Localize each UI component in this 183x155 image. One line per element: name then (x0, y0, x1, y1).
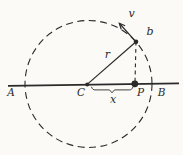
label-endpoint-left: A (6, 86, 15, 98)
label-projection-point: P (136, 86, 145, 98)
center-point-dot (85, 82, 89, 86)
diameter-line (8, 83, 179, 85)
radius-line (87, 42, 136, 85)
label-radius: r (105, 48, 111, 61)
particle-point-dot (134, 40, 139, 45)
circular-motion-diagram: A C x P B r v b (0, 0, 183, 155)
label-center: C (77, 86, 85, 98)
label-endpoint-right: B (157, 86, 166, 98)
physics-figure: A C x P B r v b (0, 0, 183, 155)
label-displacement: x (110, 93, 117, 106)
velocity-vector (120, 24, 137, 42)
projection-dashed-line (135, 42, 136, 83)
label-velocity: v (128, 7, 135, 20)
label-particle: b (146, 25, 153, 38)
